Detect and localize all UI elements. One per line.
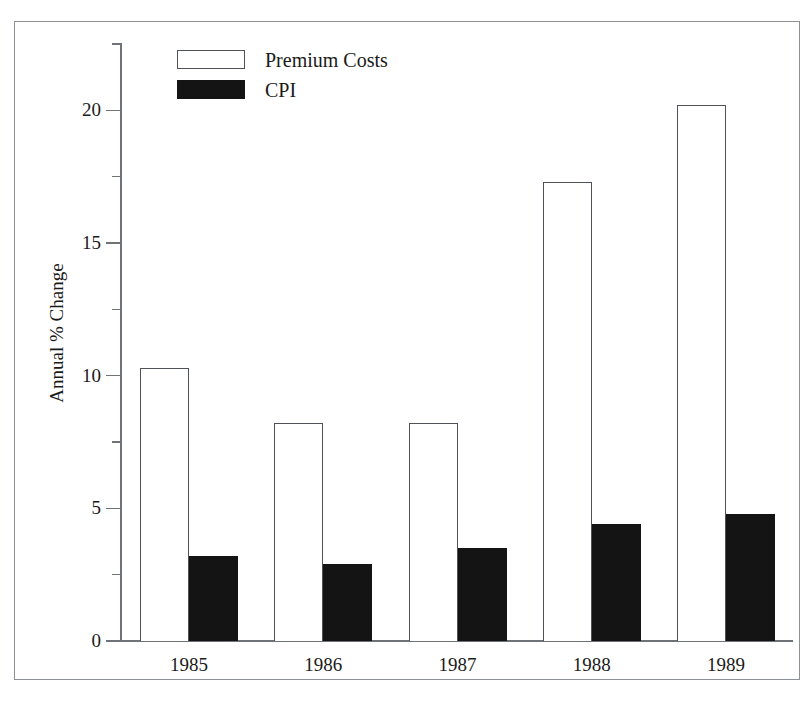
y-tick-major <box>106 110 122 112</box>
y-tick-label: 10 <box>39 366 101 385</box>
bar-premium-costs-1989 <box>677 105 726 641</box>
y-tick-minor <box>112 43 122 45</box>
y-tick-minor <box>112 309 122 311</box>
bar-cpi-1986 <box>323 564 372 641</box>
bar-cpi-1989 <box>726 514 775 641</box>
y-axis-title: Annual % Change <box>46 228 68 438</box>
figure-frame: Annual % Change 05101520 198519861987198… <box>14 21 800 680</box>
y-tick-minor <box>112 574 122 576</box>
x-tick-label: 1985 <box>122 654 256 676</box>
y-tick-label: 20 <box>39 100 101 119</box>
x-tick-label: 1988 <box>525 654 659 676</box>
y-tick-label: 5 <box>39 498 101 517</box>
legend-label: CPI <box>265 80 296 100</box>
bar-cpi-1988 <box>592 524 641 641</box>
x-tick-label: 1989 <box>659 654 793 676</box>
y-tick-major <box>106 640 122 642</box>
y-axis-line <box>120 44 122 642</box>
legend-item: CPI <box>177 76 437 103</box>
y-tick-label: 15 <box>39 233 101 252</box>
bar-premium-costs-1988 <box>543 182 592 641</box>
legend-item: Premium Costs <box>177 46 437 73</box>
bar-premium-costs-1986 <box>274 423 323 641</box>
y-tick-major <box>106 508 122 510</box>
chart-legend: Premium CostsCPI <box>177 46 437 106</box>
bar-cpi-1985 <box>189 556 238 641</box>
y-tick-minor <box>112 176 122 178</box>
y-tick-label: 0 <box>39 631 101 650</box>
legend-label: Premium Costs <box>265 50 388 70</box>
plot-area: Annual % Change 05101520 198519861987198… <box>15 22 801 681</box>
x-tick-label: 1986 <box>256 654 390 676</box>
bar-cpi-1987 <box>458 548 507 641</box>
y-tick-major <box>106 242 122 244</box>
bar-premium-costs-1985 <box>140 368 189 641</box>
x-tick-label: 1987 <box>390 654 524 676</box>
legend-swatch-cpi <box>177 80 245 99</box>
y-tick-minor <box>112 441 122 443</box>
bar-premium-costs-1987 <box>409 423 458 641</box>
y-tick-major <box>106 375 122 377</box>
legend-swatch-premium-costs <box>177 50 245 69</box>
